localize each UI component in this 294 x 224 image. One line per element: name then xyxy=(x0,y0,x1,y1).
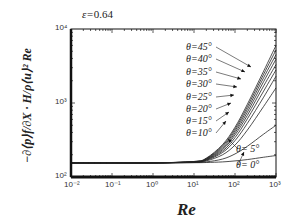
x-tick-label: 10² xyxy=(228,180,240,189)
x-tick-label: 10⁰ xyxy=(146,180,158,189)
arrowhead-icon xyxy=(225,112,229,115)
theta-label: θ= 5° xyxy=(236,143,259,154)
epsilon-value: 0.64 xyxy=(94,8,113,20)
epsilon-symbol: ε= xyxy=(82,8,94,20)
theta-label: θ=45° xyxy=(186,41,212,52)
theta-label: θ=15° xyxy=(186,115,212,126)
theta-label: θ=20° xyxy=(186,103,212,114)
arrowhead-icon xyxy=(237,76,241,79)
arrowhead-icon xyxy=(230,94,234,97)
leader-line xyxy=(216,72,241,79)
theta-label: θ= 0° xyxy=(236,159,259,170)
x-tick-label: 10³ xyxy=(269,180,281,189)
theta-label: θ=10° xyxy=(186,127,212,138)
x-tick-label: 10¹ xyxy=(187,180,199,189)
axis-ticks xyxy=(71,29,276,177)
x-tick-label: 10⁻² xyxy=(64,180,80,189)
theta-label: θ=40° xyxy=(186,53,212,64)
y-axis-title: −∂⟨p⟩f/∂X · H/ρ⟨u⟩² Re xyxy=(20,41,35,171)
theta-label: θ=30° xyxy=(186,78,212,89)
arrowhead-icon xyxy=(233,85,237,88)
x-tick-label: 10⁻¹ xyxy=(105,180,121,189)
plot-frame xyxy=(71,29,276,177)
y-tick-label: 10³ xyxy=(55,97,67,106)
theta-label: θ=25° xyxy=(186,91,212,102)
theta-label: θ=35° xyxy=(186,66,212,77)
leader-line xyxy=(216,47,251,67)
chart-canvas xyxy=(0,0,294,224)
y-tick-label: 10⁴ xyxy=(55,23,67,32)
epsilon-annotation: ε=0.64 xyxy=(82,8,113,20)
x-axis-title: Re xyxy=(177,200,196,220)
y-tick-label: 10² xyxy=(55,171,67,180)
